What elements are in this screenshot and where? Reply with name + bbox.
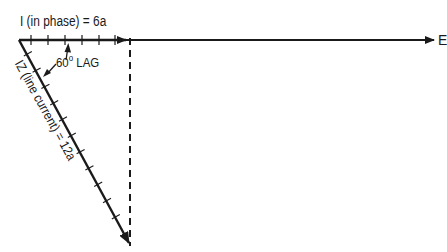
phasor-drawing xyxy=(0,0,447,252)
lag-angle-value: 60 xyxy=(56,55,69,70)
line-current-vector xyxy=(19,40,129,243)
in-phase-vector xyxy=(19,35,126,45)
voltage-axis-label: E xyxy=(438,33,447,47)
in-phase-current-label: I (in phase) = 6a xyxy=(20,14,106,28)
lag-text: LAG xyxy=(76,55,99,70)
lag-angle-label: 60o LAG xyxy=(56,54,99,69)
degree-symbol: o xyxy=(69,53,73,63)
phasor-diagram: I (in phase) = 6a E 60o LAG IZ (line cur… xyxy=(0,0,447,252)
